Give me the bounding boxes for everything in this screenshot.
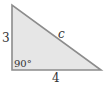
horizontal-leg-label: 4 [52,71,60,85]
hypotenuse-label: c [58,27,65,41]
right-triangle-diagram: 3 c 90° 4 [0,0,105,88]
right-angle-label: 90° [14,58,32,69]
vertical-leg-label: 3 [2,31,10,45]
